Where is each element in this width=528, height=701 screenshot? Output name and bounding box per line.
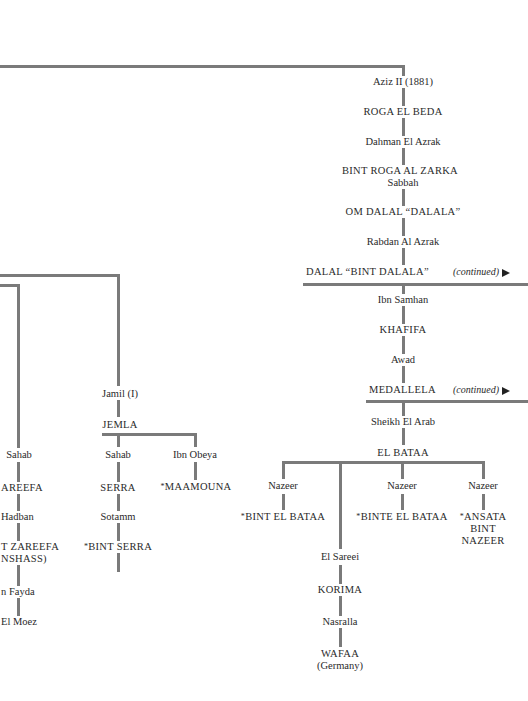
connector-jamil-bar (0, 274, 120, 277)
node-dahman: Dahman El Azrak (364, 136, 441, 148)
node-om-dalal: OM DALAL “DALALA” (345, 206, 462, 218)
node-bint-zareefa: T ZAREEFA (0, 541, 60, 553)
node-ibn-fayda: n Fayda (0, 586, 36, 598)
node-bint-el-bataa: *BINT EL BATAA (240, 511, 326, 523)
connector-nazeer3-down (482, 494, 485, 510)
node-el-moez: El Moez (0, 616, 38, 628)
connector-jamil-jemla (117, 400, 120, 417)
node-ibn-samhan: Ibn Samhan (377, 294, 429, 306)
connector-nazeer2-down (401, 494, 404, 510)
node-serra: SERRA (99, 482, 136, 494)
connector-sahab-mid (117, 433, 120, 447)
connector-obeya (194, 433, 197, 447)
node-sahab-left: Sahab (5, 449, 33, 461)
node-aziz: Aziz II (1881) (372, 76, 434, 88)
node-ansata-bint-nazeer: *ANSATA BINT NAZEER (459, 511, 508, 547)
node-hadban: Hadban (0, 511, 35, 523)
node-rabdan: Rabdan Al Azrak (366, 236, 440, 248)
arrow-right-icon (502, 269, 510, 277)
node-nazeer-2: Nazeer (386, 480, 418, 492)
continued-dalal[interactable]: (continued) (453, 266, 510, 277)
connector-left-down (17, 284, 20, 448)
node-sabbah: Sabbah (387, 177, 420, 189)
connector-jamil-down (117, 274, 120, 386)
node-nazeer-3: Nazeer (467, 480, 499, 492)
connector-medallela-bar (366, 400, 528, 403)
connector-nazeer2 (401, 461, 404, 479)
connector-sareei (339, 461, 342, 549)
node-binte-el-bataa: *BINTE EL BATAA (355, 511, 448, 523)
node-sahab-mid: Sahab (104, 449, 132, 461)
node-zareefa: AREEFA (0, 482, 44, 494)
node-medallela: MEDALLELA (368, 384, 437, 396)
node-nasralla: Nasralla (322, 616, 359, 628)
node-bint-serra: *BINT SERRA (83, 541, 153, 553)
node-nazeer-1: Nazeer (267, 480, 299, 492)
connector-dalal-bar (303, 283, 528, 286)
node-wafaa: WAFAA (320, 648, 360, 660)
node-inshass: NSHASS) (0, 553, 48, 565)
node-maamouna: *MAAMOUNA (160, 481, 233, 493)
node-jemla: JEMLA (101, 419, 138, 431)
node-bint-roga: BINT ROGA AL ZARKA (341, 165, 459, 177)
connector-nazeer1 (282, 461, 285, 479)
connector-sareei-down (339, 565, 342, 647)
node-ibn-obeya: Ibn Obeya (172, 449, 218, 461)
connector-elbataa-bar (282, 461, 485, 464)
connector-obeya-down (194, 462, 197, 480)
node-sheikh-el-arab: Sheikh El Arab (370, 416, 436, 428)
node-sotamm: Sotamm (99, 511, 136, 523)
connector-top (0, 65, 405, 68)
node-dalal: DALAL “BINT DALALA” (305, 266, 430, 278)
node-germany: (Germany) (316, 660, 364, 672)
connector-nazeer1-down (282, 494, 285, 510)
node-roga-el-beda: ROGA EL BEDA (362, 106, 443, 118)
node-khafifa: KHAFIFA (379, 324, 428, 336)
connector-nazeer3 (482, 461, 485, 479)
node-el-bataa: EL BATAA (376, 447, 430, 459)
node-el-sareei: El Sareei (320, 551, 360, 563)
arrow-right-icon (502, 387, 510, 395)
node-korima: KORIMA (317, 584, 363, 596)
continued-medallela[interactable]: (continued) (453, 384, 510, 395)
node-jamil: Jamil (I) (101, 388, 139, 400)
node-awad: Awad (390, 354, 416, 366)
